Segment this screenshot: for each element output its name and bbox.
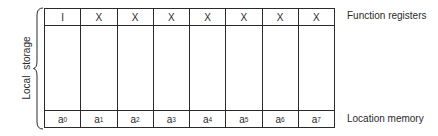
location-memory-cell: a2: [118, 110, 153, 127]
register-column: X a6: [263, 9, 299, 127]
function-register-cell: X: [81, 9, 116, 26]
location-memory-cell: a5: [226, 110, 261, 127]
function-register-cell: X: [263, 9, 298, 26]
register-column: X a4: [190, 9, 226, 127]
register-column: X a7: [299, 9, 334, 127]
register-grid: I a0 X a1 X a2 X a3 X a4 X a5 X a6 X a7: [44, 8, 335, 128]
location-memory-cell: a0: [45, 110, 80, 127]
location-memory-cell: a4: [190, 110, 225, 127]
function-registers-label: Function registers: [347, 10, 426, 21]
register-column: X a1: [81, 9, 117, 127]
register-column: X a5: [226, 9, 262, 127]
register-column: X a2: [118, 9, 154, 127]
local-storage-cell: [118, 26, 153, 110]
local-storage-cell: [299, 26, 334, 110]
function-register-cell: I: [45, 9, 80, 26]
register-column: X a3: [154, 9, 190, 127]
local-storage-cell: [263, 26, 298, 110]
local-storage-label: Local storage: [21, 36, 32, 99]
location-memory-cell: a1: [81, 110, 116, 127]
local-storage-cell: [190, 26, 225, 110]
function-register-cell: X: [226, 9, 261, 26]
local-storage-cell: [154, 26, 189, 110]
location-memory-cell: a7: [299, 110, 334, 127]
function-register-cell: X: [299, 9, 334, 26]
location-memory-cell: a3: [154, 110, 189, 127]
local-storage-cell: [226, 26, 261, 110]
register-column: I a0: [45, 9, 81, 127]
function-register-cell: X: [118, 9, 153, 26]
function-register-cell: X: [190, 9, 225, 26]
local-storage-cell: [45, 26, 80, 110]
local-storage-cell: [81, 26, 116, 110]
location-memory-cell: a6: [263, 110, 298, 127]
location-memory-label: Location memory: [347, 113, 424, 124]
function-register-cell: X: [154, 9, 189, 26]
